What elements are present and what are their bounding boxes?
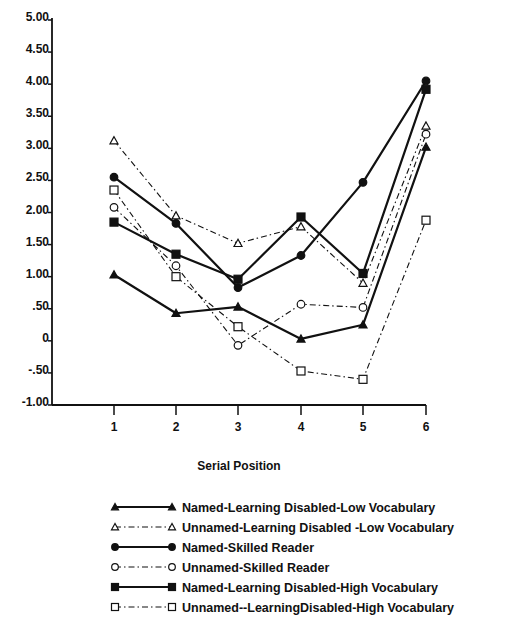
- y-tick-label: 3.00: [26, 138, 50, 152]
- legend-item: Unnamed-Skilled Reader: [112, 561, 330, 575]
- open-triangle-marker-icon: [422, 122, 430, 129]
- filled-square-marker-icon: [359, 269, 367, 277]
- y-tick-label: 1.00: [26, 267, 50, 281]
- open-square-marker-icon: [112, 604, 119, 611]
- open-circle-marker-icon: [297, 300, 305, 308]
- series-5: [110, 85, 430, 283]
- line-chart: 5.004.504.003.503.002.502.001.501.00.500…: [0, 0, 508, 641]
- filled-square-marker-icon: [169, 584, 176, 591]
- filled-square-marker-icon: [112, 584, 119, 591]
- legend-label: Named-Learning Disabled-High Vocabulary: [182, 581, 438, 595]
- filled-circle-marker-icon: [297, 252, 305, 260]
- series-4: [110, 130, 430, 349]
- legend-label: Unnamed-Skilled Reader: [182, 561, 329, 575]
- y-axis: 5.004.504.003.503.002.502.001.501.00.500…: [22, 10, 52, 409]
- legend-label: Named-Learning Disabled-Low Vocabulary: [182, 501, 435, 515]
- open-circle-marker-icon: [422, 130, 430, 138]
- open-triangle-marker-icon: [110, 137, 118, 144]
- open-circle-marker-icon: [172, 262, 180, 270]
- open-square-marker-icon: [110, 186, 118, 194]
- legend-label: Named-Skilled Reader: [182, 541, 314, 555]
- open-triangle-marker-icon: [359, 279, 367, 286]
- open-triangle-marker-icon: [172, 212, 180, 219]
- filled-circle-marker-icon: [422, 77, 430, 85]
- y-tick-label: 1.50: [26, 235, 50, 249]
- legend-item: Named-Learning Disabled-Low Vocabulary: [112, 501, 436, 515]
- x-tick-label: 2: [173, 420, 180, 434]
- filled-circle-marker-icon: [169, 544, 176, 551]
- filled-circle-marker-icon: [359, 179, 367, 187]
- open-square-marker-icon: [234, 323, 242, 331]
- legend-item: Unnamed-Learning Disabled -Low Vocabular…: [112, 521, 455, 535]
- legend-label: Unnamed--LearningDisabled-High Vocabular…: [182, 601, 454, 615]
- y-tick-label: 0: [42, 331, 49, 345]
- filled-circle-marker-icon: [172, 220, 180, 228]
- y-tick-label: -.50: [28, 363, 49, 377]
- series-3: [110, 77, 430, 291]
- x-axis: 123456: [52, 405, 430, 434]
- filled-circle-marker-icon: [110, 173, 118, 181]
- open-circle-marker-icon: [359, 304, 367, 312]
- y-tick-label: 4.50: [26, 42, 50, 56]
- filled-square-marker-icon: [234, 275, 242, 283]
- series-1: [110, 143, 430, 342]
- legend-item: Named-Learning Disabled-High Vocabulary: [112, 581, 439, 595]
- open-circle-marker-icon: [169, 564, 176, 571]
- y-tick-label: -1.00: [22, 395, 50, 409]
- open-triangle-marker-icon: [297, 223, 305, 230]
- y-tick-label: 2.50: [26, 170, 50, 184]
- legend-item: Unnamed--LearningDisabled-High Vocabular…: [112, 601, 455, 615]
- y-tick-label: 2.00: [26, 203, 50, 217]
- filled-circle-marker-icon: [234, 284, 242, 292]
- filled-square-marker-icon: [172, 250, 180, 258]
- series-2: [110, 122, 430, 286]
- filled-square-marker-icon: [110, 218, 118, 226]
- open-square-marker-icon: [422, 216, 430, 224]
- y-tick-label: 5.00: [26, 10, 50, 24]
- filled-triangle-marker-icon: [422, 143, 430, 150]
- open-triangle-marker-icon: [234, 239, 242, 246]
- open-circle-marker-icon: [112, 564, 119, 571]
- open-square-marker-icon: [297, 367, 305, 375]
- filled-triangle-marker-icon: [110, 271, 118, 278]
- series-group: [110, 77, 430, 383]
- y-tick-label: .50: [32, 299, 49, 313]
- x-tick-label: 5: [360, 420, 367, 434]
- filled-square-marker-icon: [422, 85, 430, 93]
- filled-square-marker-icon: [297, 213, 305, 221]
- y-tick-label: 4.00: [26, 74, 50, 88]
- open-square-marker-icon: [172, 273, 180, 281]
- y-tick-label: 3.50: [26, 106, 50, 120]
- x-axis-title: Serial Position: [197, 459, 280, 473]
- legend-item: Named-Skilled Reader: [112, 541, 314, 555]
- x-tick-label: 1: [111, 420, 118, 434]
- x-tick-label: 6: [423, 420, 430, 434]
- legend-label: Unnamed-Learning Disabled -Low Vocabular…: [182, 521, 454, 535]
- legend: Named-Learning Disabled-Low VocabularyUn…: [112, 501, 455, 615]
- x-tick-label: 3: [235, 420, 242, 434]
- filled-circle-marker-icon: [112, 544, 119, 551]
- x-tick-label: 4: [298, 420, 305, 434]
- open-circle-marker-icon: [110, 204, 118, 212]
- open-square-marker-icon: [359, 375, 367, 383]
- open-square-marker-icon: [169, 604, 176, 611]
- open-circle-marker-icon: [234, 342, 242, 350]
